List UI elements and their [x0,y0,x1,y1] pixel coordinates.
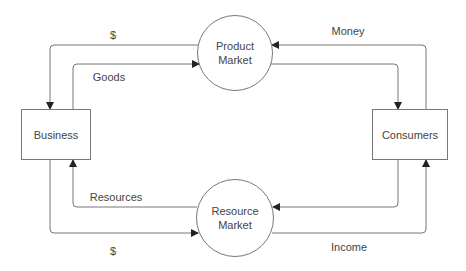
flow-label-goods: Goods [93,71,125,83]
product-market-label-line1: Product [216,39,254,53]
flow-label-income: Income [331,241,367,253]
business-label: Business [34,129,79,141]
circular-flow-diagram: Business Consumers Product Market Resour… [0,0,466,271]
resource-market-node: Resource Market [196,179,274,257]
flow-income-to-consumers [272,160,426,233]
business-node: Business [21,109,91,160]
consumers-label: Consumers [382,129,438,141]
product-market-label-line2: Market [216,53,254,67]
flow-goods-to-consumers [271,64,398,109]
flow-resources-to-resource-market [273,159,398,207]
resource-market-label-line2: Market [211,218,258,232]
flow-label-money: Money [331,25,364,37]
flow-money-to-product-market [272,45,426,110]
flow-label-resources: Resources [90,191,143,203]
flow-label-dollar-bottom: $ [110,245,116,257]
product-market-node: Product Market [197,15,273,91]
flow-label-dollar-top: $ [110,29,116,41]
resource-market-label-line1: Resource [211,204,258,218]
consumers-node: Consumers [372,109,448,160]
